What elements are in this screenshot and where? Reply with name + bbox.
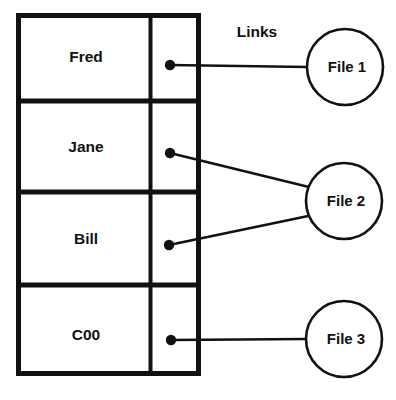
link-line-c00-file3 xyxy=(171,339,306,340)
table-row-label-1: Fred xyxy=(69,48,103,65)
link-dot-row-3[interactable] xyxy=(164,240,174,250)
diagram-canvas: Fred Jane Bill C00 Links File 1 File 2 F… xyxy=(0,0,396,400)
link-table-diagram: Fred Jane Bill C00 Links File 1 File 2 F… xyxy=(0,0,396,400)
link-line-jane-file2 xyxy=(170,153,313,188)
links-heading: Links xyxy=(237,23,277,40)
table-row-label-2: Jane xyxy=(68,138,104,155)
file-node-label-2: File 2 xyxy=(327,192,365,209)
file-node-label-1: File 1 xyxy=(328,58,366,75)
file-node-label-3: File 3 xyxy=(327,330,365,347)
link-dot-row-4[interactable] xyxy=(166,335,176,345)
table-row-label-3: Bill xyxy=(74,230,98,247)
link-line-bill-file2 xyxy=(169,215,313,245)
link-line-fred-file1 xyxy=(170,65,307,67)
table-row-label-4: C00 xyxy=(72,326,100,343)
link-dot-row-2[interactable] xyxy=(165,148,175,158)
link-dot-row-1[interactable] xyxy=(165,60,175,70)
